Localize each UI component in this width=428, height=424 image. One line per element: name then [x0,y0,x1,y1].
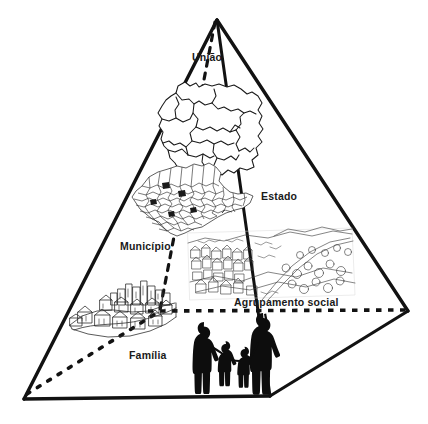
label-uniao: União [192,51,222,63]
arm-link-girl-boy [232,360,240,361]
label-estado: Estado [261,190,297,202]
silhouette-girl [218,341,237,386]
silhouette-woman [193,322,219,394]
family-silhouette-illustration [0,0,428,424]
label-agrupamento-social: Agrupamento social [234,296,339,308]
pyramid-diagram: União Estado Município Agrupamento socia… [0,0,428,424]
label-familia: Família [129,349,167,361]
label-municipio: Município [120,240,171,252]
silhouette-man [250,313,280,395]
